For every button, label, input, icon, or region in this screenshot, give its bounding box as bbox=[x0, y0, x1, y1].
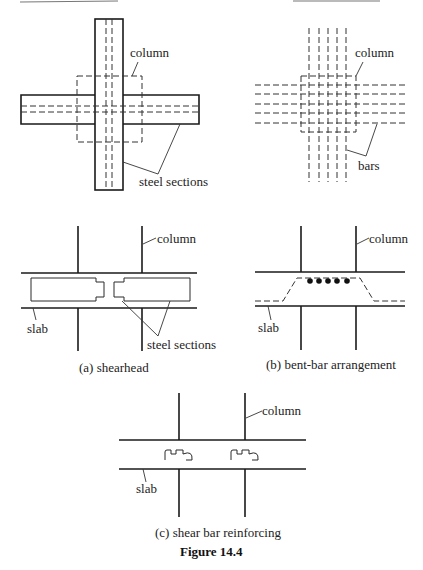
figure-title: Figure 14.4 bbox=[180, 544, 243, 559]
slab-leader bbox=[33, 308, 36, 320]
shear-bar-right bbox=[231, 450, 258, 460]
label-slab: slab bbox=[258, 320, 279, 335]
column-leader bbox=[143, 238, 156, 244]
slab-leader bbox=[268, 306, 271, 320]
column-outline bbox=[77, 76, 142, 142]
caption-a: (a) shearhead bbox=[79, 360, 149, 375]
label-bars: bars bbox=[358, 158, 380, 173]
shear-bar-left bbox=[165, 450, 192, 460]
bar-dots bbox=[307, 278, 350, 284]
shearhead-section: column slab steel sections (a) shearhead bbox=[21, 226, 216, 375]
column-leader bbox=[132, 62, 138, 76]
column-leader bbox=[357, 238, 369, 244]
column-leader bbox=[356, 62, 363, 76]
steel-section-right bbox=[114, 278, 190, 301]
label-steel-sections: steel sections bbox=[139, 174, 208, 189]
label-column: column bbox=[369, 231, 408, 246]
bent-bar-section: column slab (b) bent-bar arrangement bbox=[255, 226, 408, 372]
shearhead-plan: column steel sections bbox=[21, 19, 208, 190]
steel-strip-horizontal-right bbox=[123, 95, 199, 124]
label-column: column bbox=[157, 231, 196, 246]
label-column: column bbox=[130, 45, 169, 60]
steel-strip-vertical bbox=[95, 19, 123, 190]
label-slab: slab bbox=[27, 321, 48, 336]
bars-leader bbox=[347, 124, 377, 156]
steel-section-left bbox=[31, 278, 104, 301]
bent-bar-plan: column bars bbox=[255, 28, 405, 182]
label-column: column bbox=[355, 45, 394, 60]
label-steel-sections: steel sections bbox=[147, 337, 216, 352]
caption-c: (c) shear bar reinforcing bbox=[155, 525, 281, 540]
label-slab: slab bbox=[136, 481, 157, 496]
figure-14-4: column steel sections column bars colum bbox=[0, 0, 423, 570]
steel-leader bbox=[123, 124, 180, 174]
caption-b: (b) bent-bar arrangement bbox=[266, 357, 396, 372]
shear-bar-section: column slab (c) shear bar reinforcing Fi… bbox=[119, 393, 306, 559]
label-column: column bbox=[262, 403, 301, 418]
column-leader bbox=[246, 411, 262, 418]
steel-strip-horizontal-left bbox=[21, 95, 95, 124]
steel-leader bbox=[122, 301, 170, 336]
page-rule-left bbox=[20, 1, 118, 2]
